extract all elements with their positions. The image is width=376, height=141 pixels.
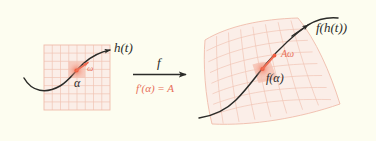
codomain-curve-label: f(h(t)) xyxy=(316,21,347,34)
figure-root: h(t) α ω f f′(α) = A f(h(t)) f(α) Aω xyxy=(0,0,376,141)
codomain-tangent-tip xyxy=(273,54,277,58)
derivative-equation-label: f′(α) = A xyxy=(136,83,174,94)
domain-point-label: α xyxy=(74,77,80,89)
domain-tangent-label: ω xyxy=(87,64,93,73)
function-arrow-label: f xyxy=(157,56,161,69)
codomain-tangent-label: Aω xyxy=(281,49,294,59)
domain-curve-label: h(t) xyxy=(114,41,133,54)
codomain-point-label: f(α) xyxy=(266,72,284,84)
